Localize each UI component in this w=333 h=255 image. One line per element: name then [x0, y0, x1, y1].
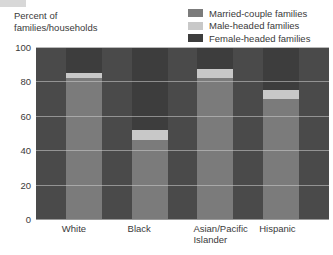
gridline-20 [36, 185, 329, 186]
legend-item-married-couple-families: Married-couple families [188, 7, 310, 20]
x-tick-label-3: Hispanic [259, 223, 295, 234]
bar-segment [66, 78, 102, 219]
bar-segment [132, 47, 168, 130]
stacked-bar[interactable] [132, 47, 168, 219]
legend-swatch-icon-female-headed [188, 34, 203, 42]
y-tick-label-0: 0 [26, 214, 31, 225]
legend-item-female-headed-families: Female-headed families [188, 32, 310, 45]
bar-slot [132, 47, 168, 219]
x-tick-label-2: Asian/Pacific Islander [193, 223, 247, 245]
y-tick-label-60: 60 [20, 110, 31, 121]
y-axis-tick-labels: 020406080100 [0, 0, 36, 255]
bar-gap [233, 47, 263, 219]
bar-segment [197, 47, 233, 69]
plot-area [36, 47, 329, 219]
legend-item-male-headed-families: Male-headed families [188, 20, 310, 33]
legend-label: Female-headed families [209, 33, 310, 44]
gridline-80 [36, 81, 329, 82]
chart-legend: Married-couple families Male-headed fami… [188, 7, 310, 45]
bar-segment [197, 78, 233, 219]
bar-gap [299, 47, 329, 219]
gridline-60 [36, 116, 329, 117]
x-axis-baseline [36, 219, 329, 220]
gridline-100 [36, 47, 329, 48]
bar-slot [263, 47, 299, 219]
chart-figure: Percent of families/households Married-c… [0, 0, 333, 255]
legend-swatch-icon-married-couple [188, 9, 203, 17]
stacked-bar[interactable] [263, 47, 299, 219]
bar-segment [132, 140, 168, 219]
bar-segment [263, 90, 299, 99]
legend-label: Married-couple families [209, 8, 307, 19]
y-tick-label-100: 100 [15, 42, 31, 53]
bar-gap [102, 47, 132, 219]
bar-group [36, 47, 329, 219]
bar-segment [263, 47, 299, 90]
legend-swatch-icon-male-headed [188, 22, 203, 30]
bar-segment [197, 69, 233, 78]
bar-gap [36, 47, 66, 219]
y-tick-label-20: 20 [20, 179, 31, 190]
stacked-bar[interactable] [66, 47, 102, 219]
x-tick-label-0: White [62, 223, 86, 234]
bar-slot [197, 47, 233, 219]
x-tick-label-1: Black [128, 223, 151, 234]
bar-segment [132, 130, 168, 140]
gridline-40 [36, 150, 329, 151]
bar-segment [66, 47, 102, 73]
y-tick-label-40: 40 [20, 145, 31, 156]
legend-label: Male-headed families [209, 20, 299, 31]
y-tick-label-80: 80 [20, 76, 31, 87]
stacked-bar[interactable] [197, 47, 233, 219]
bar-gap [168, 47, 198, 219]
bar-slot [66, 47, 102, 219]
